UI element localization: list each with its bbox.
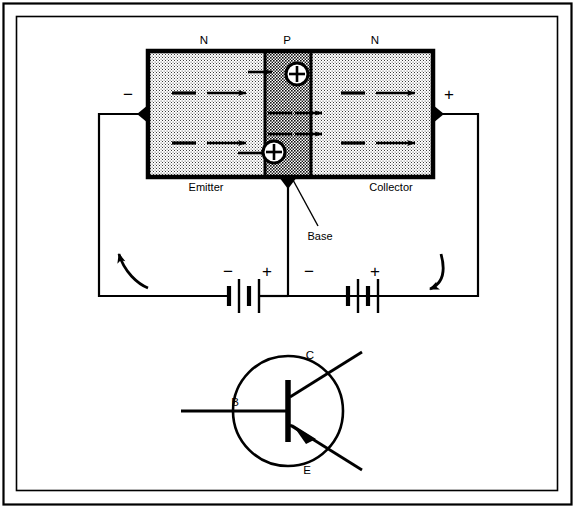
collector-terminal-sign: + [444,85,454,104]
label-emitter: Emitter [189,181,224,193]
label-collector: Collector [369,181,413,193]
label-region-collector-doping: N [371,34,379,46]
emitter-terminal-sign: − [123,85,133,104]
hole-carrier-lower [263,141,285,163]
region-collector [311,51,433,177]
symbol-label-base: B [231,396,239,408]
symbol-label-collector: C [306,349,314,361]
hole-carrier-upper [286,63,308,85]
figure-canvas: N P N [0,0,575,508]
battery1-positive-sign: + [262,262,272,281]
battery1-negative-sign: − [223,262,233,281]
label-region-emitter-doping: N [200,34,208,46]
battery2-positive-sign: + [370,262,380,281]
region-emitter [148,51,265,177]
symbol-label-emitter: E [303,464,311,476]
label-region-base-doping: P [283,34,291,46]
battery2-negative-sign: − [304,262,314,281]
label-base: Base [307,230,332,242]
